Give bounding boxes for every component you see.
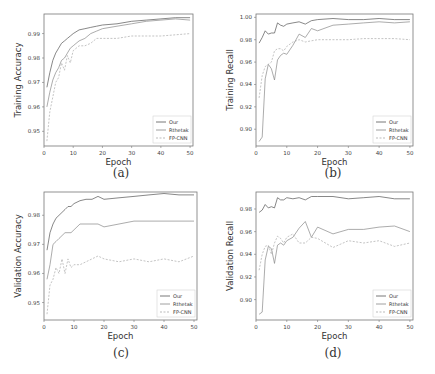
y-tick-label: 0.97 [28, 79, 41, 85]
y-tick-label: 0.96 [240, 59, 253, 65]
legend-label: Rthetak [389, 127, 409, 133]
y-tick-label: 0.90 [240, 297, 253, 303]
x-tick-label: 40 [376, 150, 383, 156]
caption-a: (a) [91, 166, 151, 180]
x-tick-label: 40 [376, 324, 383, 330]
x-tick-label: 30 [128, 150, 135, 156]
legend-label: Our [173, 293, 183, 299]
x-axis-label: Epoch [321, 331, 347, 341]
y-tick-label: 0.95 [28, 300, 41, 306]
x-tick-label: 10 [70, 150, 77, 156]
y-tick-label: 0.98 [240, 206, 253, 212]
x-tick-label: 20 [99, 150, 106, 156]
y-tick-label: 0.98 [240, 37, 253, 43]
x-tick-label: 30 [345, 150, 352, 156]
y-axis-label: Training Recall [225, 49, 235, 112]
chart-panel-b: 010203040500.900.920.940.960.981.00Epoch… [218, 0, 435, 191]
chart-training-accuracy: 010203040500.950.960.970.980.99EpochTrai… [0, 0, 218, 187]
legend-label: FP-CNN [169, 135, 188, 141]
x-tick-label: 20 [101, 324, 108, 330]
x-tick-label: 50 [187, 150, 194, 156]
y-tick-label: 0.98 [28, 212, 41, 218]
legend-label: FP-CNN [389, 135, 408, 141]
chart-training-recall: 010203040500.900.920.940.960.981.00Epoch… [218, 0, 435, 187]
x-tick-label: 40 [157, 150, 164, 156]
legend-label: FP-CNN [389, 309, 408, 315]
y-tick-label: 0.96 [28, 104, 41, 110]
legend-label: Rthetak [173, 301, 193, 307]
y-tick-label: 0.92 [240, 104, 252, 110]
legend-label: Our [389, 119, 399, 125]
caption-c: (c) [91, 346, 151, 360]
x-tick-label: 30 [131, 324, 138, 330]
y-tick-label: 0.90 [240, 126, 253, 132]
y-tick-label: 1.00 [240, 14, 253, 20]
x-tick-label: 40 [161, 324, 168, 330]
legend-label: Our [389, 293, 399, 299]
y-tick-label: 0.94 [240, 81, 253, 87]
y-tick-label: 0.97 [28, 241, 41, 247]
legend-label: Rthetak [169, 127, 189, 133]
chart-panel-a: 010203040500.950.960.970.980.99EpochTrai… [0, 0, 218, 191]
x-tick-label: 20 [314, 324, 321, 330]
y-axis-label: Training Accuracy [13, 42, 23, 118]
y-tick-label: 0.94 [240, 251, 253, 257]
y-axis-label: Validation Recall [225, 221, 235, 291]
x-tick-label: 50 [191, 324, 198, 330]
x-tick-label: 20 [314, 150, 321, 156]
legend-label: Rthetak [389, 301, 409, 307]
x-tick-label: 50 [406, 324, 413, 330]
x-tick-label: 0 [42, 324, 46, 330]
x-tick-label: 0 [254, 150, 258, 156]
y-axis-label: Validation Accuracy [13, 214, 23, 297]
y-tick-label: 0.96 [28, 270, 41, 276]
y-tick-label: 0.96 [240, 229, 253, 235]
legend-label: FP-CNN [173, 309, 192, 315]
x-tick-label: 10 [283, 150, 290, 156]
x-tick-label: 10 [71, 324, 78, 330]
y-tick-label: 0.98 [28, 55, 41, 61]
caption-d: (d) [303, 346, 363, 360]
y-tick-label: 0.92 [240, 274, 252, 280]
x-axis-label: Epoch [107, 331, 133, 341]
x-tick-label: 0 [254, 324, 258, 330]
x-tick-label: 30 [345, 324, 352, 330]
x-tick-label: 50 [406, 150, 413, 156]
caption-b: (b) [303, 166, 363, 180]
legend-label: Our [169, 119, 179, 125]
x-tick-label: 10 [283, 324, 290, 330]
y-tick-label: 0.99 [28, 31, 41, 37]
x-tick-label: 0 [42, 150, 46, 156]
y-tick-label: 0.95 [28, 128, 41, 134]
